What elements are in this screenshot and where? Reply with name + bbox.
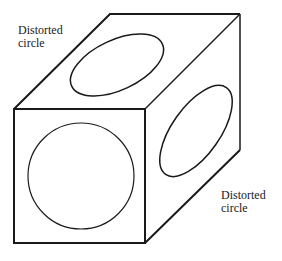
label-top-left-line2: circle (18, 37, 63, 50)
label-bottom-right: Distorted circle (221, 189, 266, 215)
front-circle (28, 123, 134, 229)
top-distorted-circle (61, 21, 173, 109)
label-top-left: Distorted circle (18, 24, 63, 50)
label-bottom-right-line2: circle (221, 202, 266, 215)
right-distorted-circle (146, 74, 246, 188)
cube-front-face (14, 109, 145, 243)
